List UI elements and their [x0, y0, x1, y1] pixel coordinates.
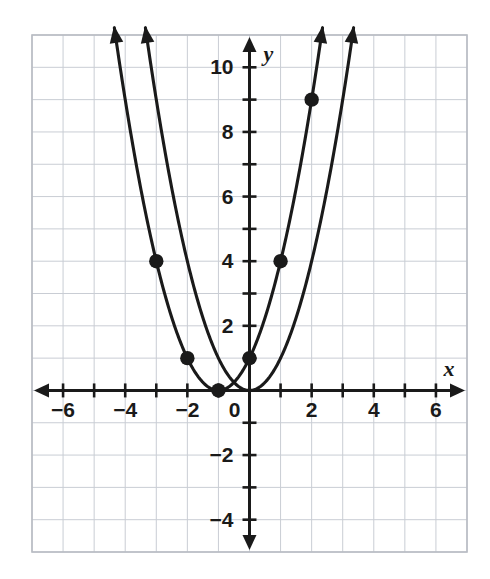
- x-tick-label: 4: [368, 398, 380, 421]
- data-point: [242, 351, 256, 365]
- data-point: [149, 254, 163, 268]
- x-tick-label: −4: [113, 398, 137, 421]
- x-tick-label: 6: [430, 398, 442, 421]
- y-tick-label: 8: [222, 120, 234, 143]
- chart-container: −6−4−20246−4−2246810 xy: [0, 0, 490, 579]
- y-tick-label: 4: [222, 249, 234, 272]
- data-point: [211, 383, 225, 397]
- y-tick-label: −2: [210, 443, 234, 466]
- chart-background: [0, 0, 490, 579]
- data-point: [273, 254, 287, 268]
- x-tick-label: 2: [306, 398, 318, 421]
- y-tick-label: 2: [222, 314, 234, 337]
- y-tick-label: 6: [222, 185, 234, 208]
- y-tick-label: 10: [210, 55, 233, 78]
- data-point: [304, 92, 318, 106]
- x-tick-label: 0: [229, 398, 241, 421]
- y-tick-label: −4: [210, 508, 234, 531]
- x-tick-label: −2: [175, 398, 199, 421]
- x-tick-label: −6: [51, 398, 75, 421]
- data-point: [180, 351, 194, 365]
- parabola-graph: −6−4−20246−4−2246810 xy: [0, 0, 490, 579]
- x-axis-label: x: [443, 356, 455, 381]
